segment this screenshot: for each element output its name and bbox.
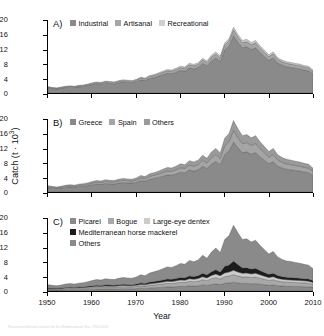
legend-swatch-icon [70,20,76,26]
legend-panel-c: PicarelBogueLarge-eye dentexMediterranea… [70,217,217,250]
y-tick-mark [43,119,47,120]
x-tick-mark [269,94,270,98]
legend-item-industrial[interactable]: Industrial [70,20,108,27]
legend-swatch-icon [70,119,76,125]
x-axis-title: Year [0,311,324,321]
panel-a: 201612840A)IndustrialArtisanalRecreation… [0,14,324,100]
x-tick-mark [180,193,181,197]
legend-item-recreational[interactable]: Recreational [159,20,208,27]
legend-label: Spain [118,119,137,126]
y-tick-mark [43,163,47,164]
x-tick-mark [313,193,314,197]
y-tick-mark [43,134,47,135]
y-tick-label: 4 [0,175,8,182]
x-tick-mark [224,193,225,197]
x-tick-mark [47,292,48,296]
legend-swatch-icon [115,20,121,26]
x-tick-mark [47,193,48,197]
y-tick-mark [43,149,47,150]
legend-item-artisanal[interactable]: Artisanal [115,20,152,27]
y-tick-label: 0 [0,90,8,97]
x-tick-label: 1960 [83,299,100,307]
legend-row: Mediterranean horse mackerel [70,228,217,237]
x-tick-mark [224,292,225,296]
x-tick-mark [136,193,137,197]
legend-label: Mediterranean horse mackerel [79,229,178,236]
legend-item-picarel[interactable]: Picarel [70,218,101,225]
x-tick-mark [136,94,137,98]
y-tick-label: 20 [0,115,8,122]
x-tick-mark [180,292,181,296]
legend-swatch-icon [159,20,165,26]
legend-item-mediterranean-horse-mackerel[interactable]: Mediterranean horse mackerel [70,229,177,236]
x-tick-mark [313,292,314,296]
x-tick-labels: 1950196019701980199020002010 [0,299,324,311]
y-tick-mark [43,35,47,36]
legend-item-bogue[interactable]: Bogue [108,218,138,225]
legend-swatch-icon [70,229,76,235]
legend-row: IndustrialArtisanalRecreational [70,19,215,28]
figure-catch-timeseries: Catch (t · 103) 201612840A)IndustrialArt… [0,0,324,336]
legend-panel-a: IndustrialArtisanalRecreational [70,19,215,30]
y-tick-label: 12 [0,145,8,152]
legend-row: GreeceSpainOthers [70,118,181,127]
y-tick-mark [43,20,47,21]
legend-item-spain[interactable]: Spain [109,119,136,126]
x-tick-label: 1970 [127,299,144,307]
x-tick-mark [91,193,92,197]
legend-row: PicarelBogueLarge-eye dentex [70,217,217,226]
legend-item-large-eye-dentex[interactable]: Large-eye dentex [144,218,209,225]
legend-item-others[interactable]: Others [70,240,100,247]
legend-label: Industrial [79,20,109,27]
plot-area-panel-b [48,119,313,192]
y-tick-label: 12 [0,244,8,251]
plot-area-panel-a [48,20,313,93]
x-tick-label: 2010 [305,299,322,307]
x-tick-mark [269,292,270,296]
panel-c: 201612840C)PicarelBogueLarge-eye dentexM… [0,212,324,298]
legend-label: Artisanal [124,20,152,27]
y-tick-label: 12 [0,46,8,53]
y-tick-mark [43,178,47,179]
x-tick-mark [269,193,270,197]
y-tick-label: 0 [0,288,8,295]
legend-item-others[interactable]: Others [144,119,174,126]
y-tick-mark [43,277,47,278]
y-tick-label: 16 [0,130,8,137]
legend-swatch-icon [144,218,150,224]
y-tick-label: 16 [0,31,8,38]
y-tick-label: 20 [0,214,8,221]
x-tick-label: 1950 [39,299,56,307]
y-tick-label: 8 [0,259,8,266]
legend-label: Picarel [79,218,101,225]
y-tick-mark [43,262,47,263]
legend-item-greece[interactable]: Greece [70,119,102,126]
x-tick-mark [136,292,137,296]
x-tick-mark [91,292,92,296]
legend-label: Others [79,240,101,247]
y-tick-label: 4 [0,76,8,83]
y-tick-label: 20 [0,16,8,23]
panel-b: 201612840B)GreeceSpainOthers [0,113,324,199]
legend-swatch-icon [144,119,150,125]
x-tick-mark [47,94,48,98]
y-tick-label: 8 [0,61,8,68]
x-tick-mark [180,94,181,98]
x-tick-mark [91,94,92,98]
legend-panel-b: GreeceSpainOthers [70,118,181,129]
legend-swatch-icon [70,240,76,246]
plot-frame-panel-a [47,20,313,94]
figure-caption: Reconstructed total catches for the Medi… [8,325,316,330]
x-tick-label: 2000 [260,299,277,307]
plot-frame-panel-b [47,119,313,193]
x-tick-label: 1980 [172,299,189,307]
y-tick-mark [43,79,47,80]
y-tick-mark [43,64,47,65]
legend-row: Others [70,239,217,248]
x-tick-mark [224,94,225,98]
legend-swatch-icon [70,218,76,224]
y-tick-label: 16 [0,229,8,236]
y-tick-mark [43,50,47,51]
y-tick-label: 8 [0,160,8,167]
legend-label: Large-eye dentex [153,218,210,225]
